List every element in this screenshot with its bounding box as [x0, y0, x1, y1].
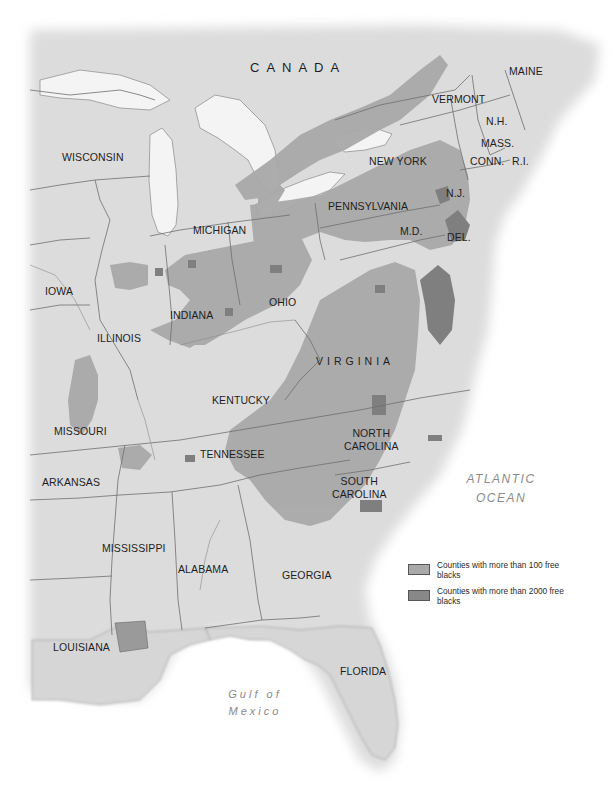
- state-label-missouri: MISSOURI: [54, 426, 107, 437]
- legend-label: Counties with more than 2000 free blacks: [437, 586, 577, 607]
- state-label-new-york: NEW YORK: [369, 156, 427, 167]
- state-label-md: M.D.: [400, 226, 423, 237]
- state-label-florida: FLORIDA: [340, 666, 386, 677]
- state-label-nh: N.H.: [486, 116, 507, 127]
- state-label-del: DEL.: [447, 232, 471, 243]
- state-label-north-carolina: NORTH CAROLINA: [344, 427, 398, 452]
- legend-label: Counties with more than 100 free blacks: [437, 560, 577, 581]
- state-label-virginia: VIRGINIA: [316, 356, 394, 367]
- legend-item-over-100: Counties with more than 100 free blacks: [408, 560, 577, 581]
- state-label-tennessee: TENNESSEE: [200, 449, 265, 460]
- state-label-ohio: OHIO: [269, 297, 296, 308]
- state-label-vermont: VERMONT: [432, 94, 485, 105]
- state-label-mississippi: MISSISSIPPI: [102, 543, 166, 554]
- state-label-michigan: MICHIGAN: [193, 225, 246, 236]
- legend-swatch-over-100: [408, 564, 430, 575]
- state-label-indiana: INDIANA: [170, 310, 213, 321]
- legend-item-over-2000: Counties with more than 2000 free blacks: [408, 586, 577, 607]
- state-label-illinois: ILLINOIS: [97, 333, 141, 344]
- state-label-conn: CONN.: [470, 156, 504, 167]
- state-label-pennsylvania: PENNSYLVANIA: [328, 201, 408, 212]
- state-label-nj: N.J.: [446, 188, 465, 199]
- water-label-gulf: Gulf of Mexico: [210, 686, 300, 720]
- country-label-canada: CANADA: [250, 60, 346, 75]
- state-label-alabama: ALABAMA: [178, 564, 228, 575]
- state-label-kentucky: KENTUCKY: [212, 395, 270, 406]
- state-label-wisconsin: WISCONSIN: [62, 152, 124, 163]
- state-label-louisiana: LOUISIANA: [53, 642, 110, 653]
- state-label-mass: MASS.: [481, 138, 514, 149]
- legend-swatch-over-2000: [408, 590, 430, 601]
- state-label-south-carolina: SOUTH CAROLINA: [332, 475, 386, 500]
- map-canvas: [0, 0, 613, 812]
- state-label-maine: MAINE: [509, 66, 543, 77]
- map-legend: Counties with more than 100 free blacks …: [408, 560, 577, 611]
- water-label-atlantic: ATLANTIC OCEAN: [446, 470, 556, 507]
- state-label-ri: R.I.: [512, 156, 529, 167]
- state-label-georgia: GEORGIA: [282, 570, 332, 581]
- state-label-iowa: IOWA: [45, 286, 73, 297]
- state-label-arkansas: ARKANSAS: [42, 477, 100, 488]
